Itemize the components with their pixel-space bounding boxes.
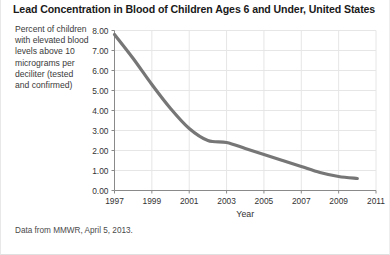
x-tick-label: 1999 [143,196,162,206]
x-axis-label: Year [236,209,254,219]
x-tick-label: 2003 [217,196,236,206]
x-tick-label: 2001 [180,196,199,206]
y-tick-label: 3.00 [92,126,109,136]
line-chart-plot: 0.001.002.003.004.005.006.007.008.001997… [1,0,390,255]
y-tick-label: 6.00 [92,66,109,76]
x-tick-label: 2005 [255,196,274,206]
y-axis-ticks: 0.001.002.003.004.005.006.007.008.00 [92,26,114,196]
gridlines [115,31,377,191]
x-tick-label: 2007 [292,196,311,206]
y-tick-label: 1.00 [92,166,109,176]
source-footnote: Data from MMWR, April 5, 2013. [15,226,133,235]
y-tick-label: 7.00 [92,46,109,56]
x-tick-label: 2009 [329,196,348,206]
y-tick-label: 5.00 [92,86,109,96]
y-tick-label: 4.00 [92,106,109,116]
x-axis-ticks: 19971999200120032005200720092011 [105,191,385,206]
chart-figure: Lead Concentration in Blood of Children … [0,0,390,255]
data-line-series [115,35,358,179]
y-tick-label: 8.00 [92,26,109,36]
x-tick-label: 1997 [105,196,124,206]
x-tick-label: 2011 [367,196,385,206]
y-tick-label: 2.00 [92,146,109,156]
y-tick-label: 0.00 [92,186,109,196]
